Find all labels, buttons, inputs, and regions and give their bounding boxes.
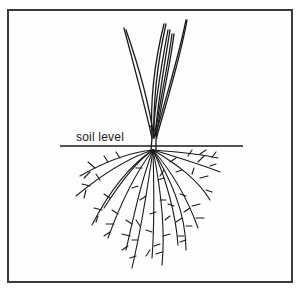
plant-illustration bbox=[0, 0, 302, 290]
soil-level-label: soil level bbox=[76, 130, 124, 144]
plant-shoot bbox=[124, 20, 187, 150]
root-system bbox=[76, 150, 220, 268]
